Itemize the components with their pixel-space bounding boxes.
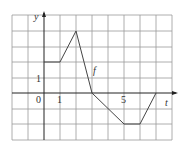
curve-label-f: f (93, 65, 97, 76)
origin-label: 0 (36, 94, 41, 105)
y-tick-1-label: 1 (36, 73, 41, 84)
t-axis-arrow-icon (172, 91, 178, 95)
y-axis-label: y (33, 11, 39, 22)
curve-f (44, 31, 156, 124)
x-tick-1-label: 1 (57, 94, 62, 105)
y-axis-arrow-icon (42, 11, 46, 17)
x-tick-5-label: 5 (121, 94, 126, 105)
graph: y t 0 1 5 1 f (0, 0, 180, 144)
t-axis-label: t (165, 97, 168, 108)
